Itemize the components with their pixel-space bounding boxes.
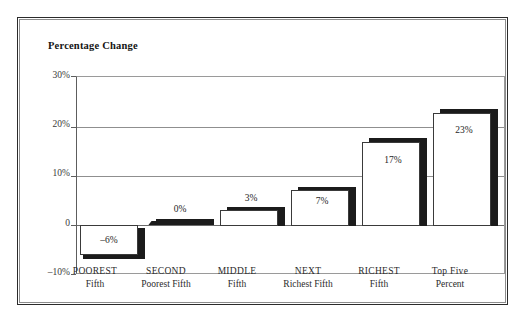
bar-shadow-right-middle-fifth <box>278 207 285 226</box>
bar-value-label-second-poorest-fifth: 0% <box>149 204 211 214</box>
bar-value-label-next-richest-fifth: 7% <box>293 196 351 206</box>
y-tick-label-0: 0 <box>26 218 70 228</box>
y-tick-label-20: 20% <box>26 119 70 129</box>
bar-shadow-bottom-poorest-fifth <box>83 255 145 259</box>
bar-value-label-poorest-fifth: –6% <box>80 235 138 245</box>
bar-shadow-right-next-richest-fifth <box>349 187 356 226</box>
bar-group-richest-fifth[interactable]: 17% <box>362 76 428 274</box>
chart-title: Percentage Change <box>48 40 138 51</box>
x-label-top-five-percent: Top Five Percent <box>408 265 492 290</box>
bar-shadow-right-poorest-fifth <box>138 228 145 258</box>
bar-group-next-richest-fifth[interactable]: 7% <box>291 76 357 274</box>
bar-value-label-middle-fifth: 3% <box>222 193 280 203</box>
y-tick-label-10: 10% <box>26 168 70 178</box>
bar-group-middle-fifth[interactable]: 3% <box>220 76 286 274</box>
chart-figure: Percentage Change 30% 20% 10% 0 –10% <box>0 0 522 323</box>
plot-area: –6% 0% 3% 7% <box>76 76 505 274</box>
bar-shadow-right-richest-fifth <box>420 138 427 226</box>
bar-value-label-top-five-percent: 23% <box>435 125 493 135</box>
x-label-line2: Percent <box>408 278 492 291</box>
bar-second-poorest-fifth[interactable] <box>153 222 214 225</box>
bar-group-top-five-percent[interactable]: 23% <box>433 76 499 274</box>
y-tick-label-30: 30% <box>26 70 70 80</box>
figure-frame: Percentage Change 30% 20% 10% 0 –10% <box>17 17 508 305</box>
bar-middle-fifth[interactable] <box>220 210 278 226</box>
bar-value-label-richest-fifth: 17% <box>364 155 422 165</box>
bar-group-poorest-fifth[interactable]: –6% <box>80 76 146 274</box>
x-label-line1: Top Five <box>408 265 492 278</box>
bar-group-second-poorest-fifth[interactable]: 0% <box>149 76 215 274</box>
